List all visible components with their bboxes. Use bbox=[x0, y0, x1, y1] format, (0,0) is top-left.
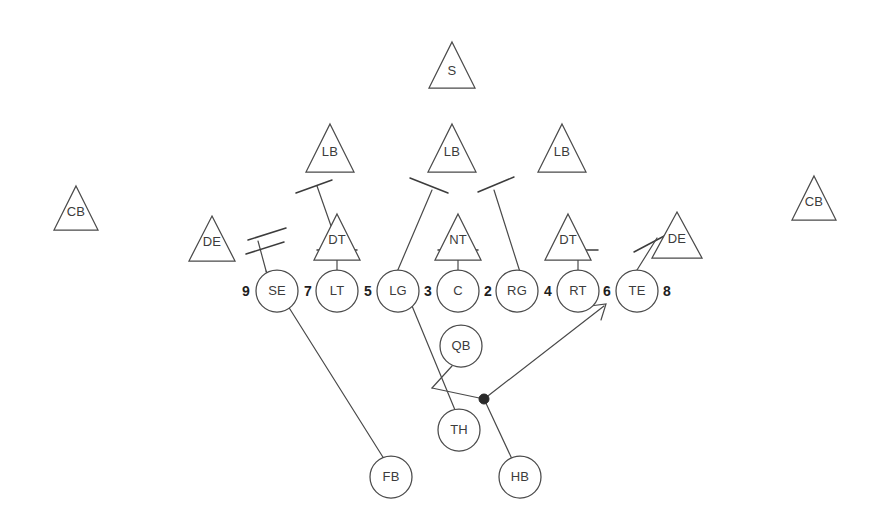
offense-label: LG bbox=[389, 283, 407, 298]
defender-label: DT bbox=[328, 232, 346, 247]
gap-number: 7 bbox=[304, 283, 312, 299]
offense-player-c[interactable]: C bbox=[437, 270, 479, 312]
offense-player-lt[interactable]: LT bbox=[316, 270, 358, 312]
gap-number: 6 bbox=[603, 283, 611, 299]
defender-label: LB bbox=[554, 144, 570, 159]
route-line-qb bbox=[432, 366, 452, 388]
block-mark-lb-mid-right bbox=[478, 177, 514, 192]
route-line-mesh-to-ball bbox=[432, 388, 484, 399]
gap-number: 9 bbox=[242, 283, 250, 299]
play-diagram-svg: S LB LB LB CB CB bbox=[0, 0, 887, 521]
offense-label: TH bbox=[450, 422, 468, 437]
route-line-hb bbox=[484, 399, 512, 459]
defender-label: DE bbox=[668, 231, 687, 246]
gap-number: 3 bbox=[424, 283, 432, 299]
block-line-rg bbox=[494, 190, 520, 272]
offense-player-lg[interactable]: LG bbox=[377, 270, 419, 312]
offense-label: TE bbox=[628, 283, 645, 298]
offense-line-group: SE LT LG C RG RT bbox=[256, 270, 658, 312]
defender-label: CB bbox=[67, 204, 85, 219]
block-line-lg bbox=[397, 190, 432, 272]
offense-player-rg[interactable]: RG bbox=[496, 270, 538, 312]
defender-cb-right[interactable]: CB bbox=[792, 176, 836, 220]
defender-nt[interactable]: NT bbox=[435, 214, 481, 260]
offense-player-qb[interactable]: QB bbox=[440, 325, 482, 367]
offense-label: HB bbox=[511, 469, 529, 484]
defender-lb-mid[interactable]: LB bbox=[428, 124, 476, 172]
defender-label: CB bbox=[805, 194, 823, 209]
defender-label: DE bbox=[203, 234, 222, 249]
offense-label: LT bbox=[330, 283, 345, 298]
offense-backfield-group: QB TH FB HB bbox=[370, 325, 541, 498]
block-mark-se-lower bbox=[246, 242, 284, 254]
block-mark-lb-left bbox=[296, 180, 332, 193]
offense-player-th[interactable]: TH bbox=[438, 409, 480, 451]
block-mark-se-upper bbox=[248, 228, 286, 240]
defender-de-left[interactable]: DE bbox=[189, 216, 235, 261]
defender-cb-left[interactable]: CB bbox=[54, 186, 98, 230]
defender-dt-right[interactable]: DT bbox=[545, 214, 591, 260]
offense-player-rt[interactable]: RT bbox=[557, 270, 599, 312]
defender-dt-left[interactable]: DT bbox=[314, 214, 360, 260]
defender-label: DT bbox=[559, 232, 577, 247]
defender-lb-left[interactable]: LB bbox=[306, 124, 354, 172]
gap-number: 8 bbox=[663, 283, 671, 299]
defender-label: LB bbox=[322, 144, 338, 159]
defense-group: S LB LB LB CB CB bbox=[54, 42, 836, 261]
defender-s[interactable]: S bbox=[429, 42, 475, 88]
ball-point-marker bbox=[479, 394, 489, 404]
block-mark-lb-mid-left bbox=[410, 178, 448, 193]
gap-number: 5 bbox=[364, 283, 372, 299]
gap-number: 2 bbox=[484, 283, 492, 299]
defender-label: S bbox=[448, 63, 457, 78]
defender-label: LB bbox=[444, 144, 460, 159]
ball-dot-icon bbox=[479, 394, 489, 404]
defender-lb-right[interactable]: LB bbox=[538, 124, 586, 172]
offense-player-te[interactable]: TE bbox=[616, 270, 658, 312]
offense-label: RT bbox=[569, 283, 587, 298]
ball-carrier-arrow bbox=[484, 306, 604, 399]
offense-player-fb[interactable]: FB bbox=[370, 456, 412, 498]
offense-label: C bbox=[453, 283, 463, 298]
assignment-lines bbox=[258, 186, 606, 462]
offense-label: QB bbox=[451, 338, 470, 353]
gap-number: 4 bbox=[544, 283, 552, 299]
offense-label: RG bbox=[507, 283, 527, 298]
offense-label: FB bbox=[382, 469, 399, 484]
play-diagram-canvas: S LB LB LB CB CB bbox=[0, 0, 887, 521]
offense-player-se[interactable]: SE bbox=[256, 270, 298, 312]
defender-label: NT bbox=[449, 232, 467, 247]
defender-de-right[interactable]: DE bbox=[652, 212, 702, 258]
offense-player-hb[interactable]: HB bbox=[499, 456, 541, 498]
offense-label: SE bbox=[268, 283, 286, 298]
